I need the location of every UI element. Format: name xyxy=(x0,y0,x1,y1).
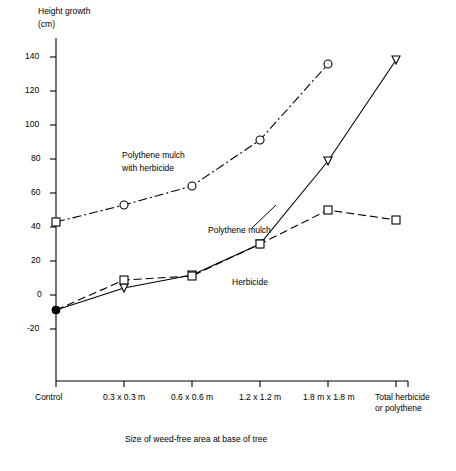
series-line-polythene-mulch xyxy=(56,60,396,310)
control-point-marker xyxy=(52,306,60,314)
series-line-polythene-mulch-with-herbicide xyxy=(56,64,328,222)
chart-container: Height growth (cm) 140 120 100 80 60 40 … xyxy=(0,0,456,471)
series-markers-polythene-mulch-with-herbicide xyxy=(120,60,332,209)
y-axis-ticks xyxy=(50,57,56,329)
x-axis-ticks xyxy=(56,381,408,387)
leader-line-polythene-mulch xyxy=(252,205,276,228)
plot-svg xyxy=(0,0,456,471)
series-markers-herbicide xyxy=(52,206,400,284)
series-markers-polythene-mulch xyxy=(120,56,400,292)
series-line-herbicide xyxy=(56,210,396,310)
